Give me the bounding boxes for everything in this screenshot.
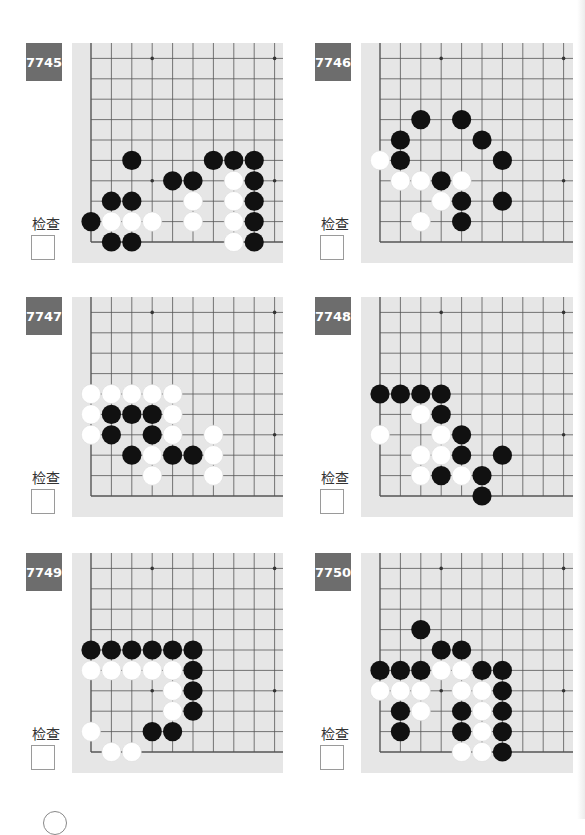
- white-stone: [163, 681, 182, 700]
- black-stone: [183, 640, 202, 659]
- star-point: [273, 311, 277, 315]
- black-stone: [452, 640, 471, 659]
- star-point: [273, 179, 277, 183]
- black-stone: [163, 640, 182, 659]
- white-stone: [122, 384, 141, 403]
- star-point: [439, 57, 443, 61]
- black-stone: [452, 722, 471, 741]
- black-stone: [452, 110, 471, 129]
- star-point: [150, 179, 154, 183]
- black-stone: [391, 384, 410, 403]
- white-stone: [143, 661, 162, 680]
- white-stone: [163, 702, 182, 721]
- black-stone: [245, 192, 264, 211]
- problem-7745: 7745检查: [26, 43, 306, 273]
- black-stone: [122, 640, 141, 659]
- black-stone: [183, 681, 202, 700]
- problem-7749: 7749检查: [26, 553, 306, 783]
- black-stone: [122, 151, 141, 170]
- problem-number-badge: 7747: [26, 297, 62, 335]
- black-stone: [493, 151, 512, 170]
- white-stone: [411, 405, 430, 424]
- black-stone: [183, 661, 202, 680]
- black-stone: [245, 171, 264, 190]
- black-stone: [411, 384, 430, 403]
- black-stone: [224, 151, 243, 170]
- black-stone: [411, 661, 430, 680]
- white-stone: [452, 171, 471, 190]
- white-stone: [432, 661, 451, 680]
- check-checkbox[interactable]: [320, 489, 344, 514]
- white-stone: [411, 446, 430, 465]
- black-stone: [411, 110, 430, 129]
- white-stone: [224, 232, 243, 251]
- white-stone: [163, 384, 182, 403]
- white-stone: [122, 742, 141, 761]
- black-stone: [183, 446, 202, 465]
- black-stone: [472, 130, 491, 149]
- white-stone: [102, 661, 121, 680]
- white-stone: [224, 192, 243, 211]
- white-stone: [391, 681, 410, 700]
- white-stone: [432, 192, 451, 211]
- check-checkbox[interactable]: [31, 489, 55, 514]
- black-stone: [163, 171, 182, 190]
- white-stone: [370, 425, 389, 444]
- black-stone: [493, 681, 512, 700]
- check-label: 检查: [32, 467, 60, 487]
- black-stone: [122, 192, 141, 211]
- white-stone: [183, 212, 202, 231]
- white-stone: [204, 446, 223, 465]
- star-point: [273, 433, 277, 437]
- black-stone: [204, 151, 223, 170]
- black-stone: [245, 212, 264, 231]
- black-stone: [472, 486, 491, 505]
- white-stone: [122, 661, 141, 680]
- star-point: [273, 567, 277, 571]
- white-stone: [472, 681, 491, 700]
- white-stone: [102, 212, 121, 231]
- white-stone: [143, 384, 162, 403]
- black-stone: [493, 742, 512, 761]
- black-stone: [391, 661, 410, 680]
- black-stone: [493, 661, 512, 680]
- star-point: [562, 179, 566, 183]
- check-checkbox[interactable]: [320, 745, 344, 770]
- black-stone: [102, 425, 121, 444]
- white-stone: [224, 212, 243, 231]
- black-stone: [143, 640, 162, 659]
- white-stone: [472, 742, 491, 761]
- black-stone: [432, 466, 451, 485]
- black-stone: [432, 640, 451, 659]
- check-label: 检查: [32, 723, 60, 743]
- black-stone: [143, 405, 162, 424]
- star-point: [439, 311, 443, 315]
- white-stone: [81, 405, 100, 424]
- check-checkbox[interactable]: [31, 745, 55, 770]
- black-stone: [102, 232, 121, 251]
- black-stone: [391, 151, 410, 170]
- white-stone: [452, 661, 471, 680]
- black-stone: [391, 722, 410, 741]
- white-stone: [411, 681, 430, 700]
- star-point: [273, 57, 277, 61]
- check-label: 检查: [321, 213, 349, 233]
- problem-7746: 7746检查: [315, 43, 585, 273]
- go-board: [361, 553, 573, 773]
- star-point: [562, 57, 566, 61]
- white-stone: [122, 212, 141, 231]
- check-label: 检查: [321, 723, 349, 743]
- white-stone: [411, 171, 430, 190]
- check-checkbox[interactable]: [31, 235, 55, 260]
- check-label: 检查: [32, 213, 60, 233]
- white-stone: [411, 212, 430, 231]
- white-stone: [432, 425, 451, 444]
- white-stone: [204, 425, 223, 444]
- black-stone: [183, 702, 202, 721]
- check-checkbox[interactable]: [320, 235, 344, 260]
- white-stone: [143, 212, 162, 231]
- black-stone: [493, 722, 512, 741]
- black-stone: [452, 212, 471, 231]
- problem-7747: 7747检查: [26, 297, 306, 527]
- black-stone: [102, 640, 121, 659]
